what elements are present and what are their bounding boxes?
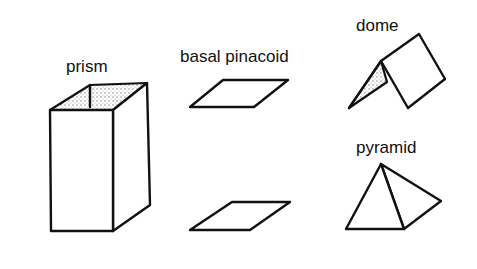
dome-right-face <box>381 34 445 108</box>
pyramid-figure: pyramid <box>346 138 441 229</box>
basal-pinacoid-label: basal pinacoid <box>180 47 289 66</box>
dome-figure: dome <box>349 16 445 108</box>
pyramid-label: pyramid <box>356 138 416 157</box>
prism-front-face <box>50 110 113 231</box>
basal-pinacoid-figure: basal pinacoid <box>180 47 290 230</box>
pinacoid-top-face <box>190 80 288 107</box>
crystal-forms-diagram: prism basal pinacoid dome pyramid <box>0 0 477 269</box>
prism-label: prism <box>66 57 108 76</box>
pinacoid-bottom-face <box>190 202 290 230</box>
prism-side-face <box>113 83 150 231</box>
dome-label: dome <box>356 16 399 35</box>
prism-figure: prism <box>50 57 150 231</box>
